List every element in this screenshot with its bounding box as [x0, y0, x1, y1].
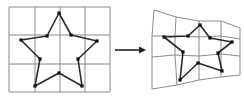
- control-point: [80, 84, 83, 87]
- control-point: [38, 57, 41, 60]
- control-point: [178, 78, 181, 81]
- star-shape-warped: [162, 23, 233, 81]
- control-point: [186, 34, 189, 37]
- control-point: [181, 50, 184, 53]
- arrow-head: [139, 47, 146, 54]
- control-point: [69, 33, 72, 36]
- control-point: [57, 71, 60, 74]
- star-outline: [21, 13, 97, 86]
- warped-grid-line: [154, 10, 240, 28]
- control-point: [33, 84, 36, 87]
- warped-grid: [152, 10, 240, 89]
- control-point: [45, 34, 48, 37]
- control-point: [95, 39, 98, 42]
- control-point: [76, 57, 79, 60]
- star-shape-original: [19, 11, 98, 87]
- control-point: [19, 38, 22, 41]
- control-point: [220, 69, 223, 72]
- warped-grid-line: [152, 54, 240, 57]
- control-point: [216, 51, 219, 54]
- warped-grid-line: [152, 10, 154, 89]
- warped-grid-line: [152, 75, 240, 89]
- regular-grid: [9, 7, 110, 92]
- control-point: [198, 23, 201, 26]
- control-point: [230, 40, 233, 43]
- warp-diagram: [0, 0, 244, 104]
- diagram-canvas: [0, 0, 244, 104]
- control-point: [57, 11, 60, 14]
- control-point: [162, 35, 165, 38]
- control-point: [208, 36, 211, 39]
- warped-grid-line: [175, 17, 177, 85]
- arrow-right-icon: [115, 47, 146, 54]
- control-point: [196, 61, 199, 64]
